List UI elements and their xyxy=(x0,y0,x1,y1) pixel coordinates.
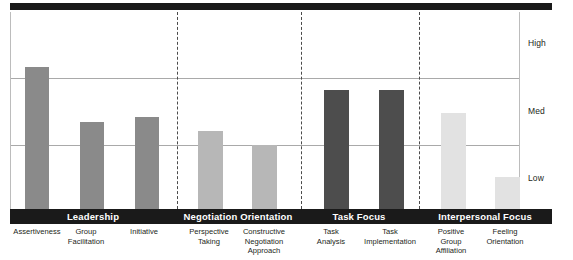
item-label-feeling-orientation: Feeling Orientation xyxy=(470,227,540,246)
category-label-negotiation-orientation: Negotiation Orientation xyxy=(176,209,300,224)
item-label-line1: Feeling xyxy=(470,227,540,237)
item-label-line2: Negotiation xyxy=(228,237,300,247)
bar-constructive-negotiation-approach xyxy=(252,145,277,209)
category-label-leadership: Leadership xyxy=(10,209,176,224)
group-divider-1 xyxy=(177,12,178,209)
bar-task-analysis xyxy=(324,90,349,209)
bar-perspective-taking xyxy=(198,131,223,209)
item-label-line2: Facilitation xyxy=(53,237,119,247)
group-divider-3 xyxy=(419,12,420,209)
group-divider-2 xyxy=(301,12,302,209)
bar-feeling-orientation xyxy=(495,177,520,209)
plot-area xyxy=(10,12,520,209)
item-label-line1: Initiative xyxy=(111,227,177,237)
category-label-interpersonal-focus: Interpersonal Focus xyxy=(418,209,552,224)
category-label-task-focus: Task Focus xyxy=(300,209,418,224)
bar-assertiveness xyxy=(25,67,49,209)
bar-group-facilitation xyxy=(80,122,104,209)
bar-task-implementation xyxy=(379,90,404,209)
item-label-line1: Group xyxy=(53,227,119,237)
item-label-constructive-negotiation-approach: Constructive Negotiation Approach xyxy=(228,227,300,256)
item-label-line3: Affiliation xyxy=(418,246,484,256)
item-label-line3: Approach xyxy=(228,246,300,256)
y-tick-high: High xyxy=(528,38,546,48)
y-tick-low: Low xyxy=(528,173,544,183)
top-rule xyxy=(10,3,552,10)
bar-positive-group-affiliation xyxy=(441,113,466,209)
item-label-line1: Constructive xyxy=(228,227,300,237)
chart-root: High Med Low Leadership Negotiation Orie… xyxy=(0,0,573,260)
gridline-high-med xyxy=(11,78,519,79)
bar-initiative xyxy=(135,117,159,209)
y-tick-med: Med xyxy=(528,106,545,116)
category-band: Leadership Negotiation Orientation Task … xyxy=(10,209,552,224)
item-label-initiative: Initiative xyxy=(111,227,177,237)
item-label-group-facilitation: Group Facilitation xyxy=(53,227,119,246)
y-axis-right: High Med Low xyxy=(524,12,573,209)
item-label-line2: Orientation xyxy=(470,237,540,247)
